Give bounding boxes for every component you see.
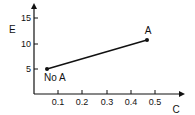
data-point-no-a [45,67,49,71]
chart: 5 10 15 0.1 0.2 0.3 0.4 0.5 E C No A A [0,0,195,115]
y-tick-label-15: 15 [21,13,31,23]
x-tick-label-0.3: 0.3 [101,97,114,107]
y-ticks: 5 10 15 [21,13,38,74]
data-point-a [145,38,149,42]
point-label-a: A [145,25,152,36]
y-axis-label: E [9,24,16,35]
point-label-no-a: No A [44,72,66,83]
data-line [47,40,147,69]
x-tick-label-0.1: 0.1 [52,97,65,107]
x-tick-label-0.2: 0.2 [76,97,89,107]
x-axis-label: C [172,104,179,115]
y-tick-label-10: 10 [21,39,31,49]
x-ticks: 0.1 0.2 0.3 0.4 0.5 [52,90,162,107]
x-tick-label-0.5: 0.5 [149,97,162,107]
x-tick-label-0.4: 0.4 [125,97,138,107]
y-tick-label-5: 5 [26,64,31,74]
